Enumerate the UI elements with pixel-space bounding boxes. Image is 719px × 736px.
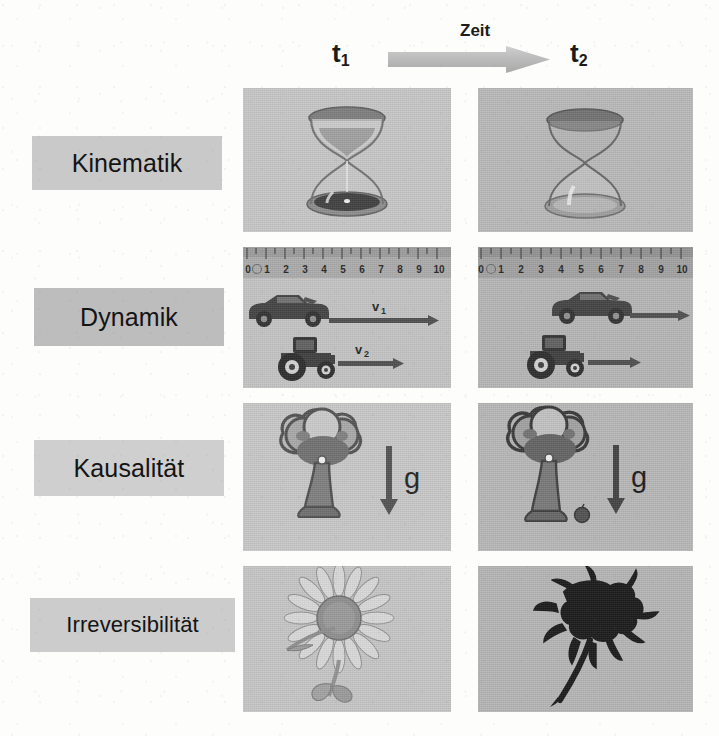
panel-kausalitaet-t2: g: [478, 403, 693, 551]
t1-letter: t: [332, 38, 341, 68]
svg-text:2: 2: [283, 264, 289, 275]
ruler-icon: 012 345 678 910: [478, 247, 693, 278]
dynamik-scene-t2: 012 345 678 910: [478, 247, 693, 388]
svg-text:7: 7: [618, 264, 624, 275]
t2-letter: t: [570, 38, 579, 68]
tractor-icon: [527, 335, 584, 379]
row-label-irreversibilitaet: Irreversibilität: [30, 598, 235, 652]
t2-subscript: 2: [579, 52, 588, 69]
panel-irreversibilitaet-t2: [478, 566, 693, 712]
flower-icon: [243, 566, 451, 712]
panel-dynamik-t2: 012 345 678 910: [478, 247, 693, 388]
tree-icon: [281, 409, 361, 517]
svg-text:5: 5: [578, 264, 584, 275]
svg-text:5: 5: [340, 264, 346, 275]
velocity-arrow-icon-v2: [338, 358, 404, 369]
svg-text:3: 3: [538, 264, 544, 275]
apple-icon: [575, 504, 590, 523]
car-icon: [552, 292, 632, 324]
svg-text:10: 10: [676, 264, 688, 275]
panel-kausalitaet-t1: g: [243, 403, 451, 551]
row-label-dynamik: Dynamik: [34, 288, 224, 346]
svg-text:0: 0: [478, 264, 484, 275]
time-label-t2: t2: [570, 38, 588, 70]
svg-text:10: 10: [433, 264, 445, 275]
gravity-label: g: [631, 461, 647, 493]
hourglass-icon: [478, 88, 693, 232]
svg-text:6: 6: [598, 264, 604, 275]
row-label-kausalitaet: Kausalität: [34, 440, 224, 496]
panel-kinematik-t2: [478, 88, 693, 232]
svg-text:3: 3: [302, 264, 308, 275]
svg-text:1: 1: [498, 264, 504, 275]
t1-subscript: 1: [341, 52, 350, 69]
velocity-label-v2: v: [355, 342, 363, 357]
svg-text:2: 2: [518, 264, 524, 275]
panel-dynamik-t1: 012 345 678 910 v 1: [243, 247, 451, 388]
svg-text:8: 8: [638, 264, 644, 275]
kausalitaet-scene-t2: g: [478, 403, 693, 551]
tractor-icon: [278, 337, 335, 381]
velocity-arrow-icon-v1: [630, 310, 690, 321]
time-label-t1: t1: [332, 38, 350, 70]
leaf: [312, 684, 331, 701]
svg-text:1: 1: [264, 264, 270, 275]
down-arrow-icon: [380, 446, 398, 515]
dynamik-scene-t1: 012 345 678 910 v 1: [243, 247, 451, 388]
leaf: [333, 686, 352, 702]
right-arrow-icon: [388, 46, 550, 74]
svg-text:9: 9: [416, 264, 422, 275]
panel-irreversibilitaet-t1: [243, 566, 451, 712]
tree-icon: [508, 407, 588, 521]
velocity-label-v1: v: [372, 299, 380, 314]
svg-text:2: 2: [364, 349, 369, 359]
diagram-header: t1 Zeit t2: [0, 0, 719, 88]
gravity-label: g: [404, 462, 420, 494]
svg-text:7: 7: [378, 264, 384, 275]
svg-text:8: 8: [397, 264, 403, 275]
hourglass-icon: [243, 88, 451, 232]
svg-text:1: 1: [381, 306, 386, 316]
ruler-icon: 012 345 678 910: [243, 247, 451, 278]
velocity-arrow-icon-v1: [329, 315, 439, 326]
panel-kinematik-t1: [243, 88, 451, 232]
withered-flower-icon: [478, 566, 693, 712]
row-label-kinematik: Kinematik: [32, 136, 222, 190]
apple-icon: [318, 456, 326, 464]
velocity-arrow-icon-v2: [588, 357, 641, 368]
car-icon: [249, 295, 329, 327]
time-axis-caption: Zeit: [460, 21, 490, 41]
svg-text:9: 9: [658, 264, 664, 275]
svg-text:6: 6: [359, 264, 365, 275]
svg-text:0: 0: [245, 264, 251, 275]
kausalitaet-scene-t1: g: [243, 403, 451, 551]
svg-text:4: 4: [558, 264, 564, 275]
svg-text:4: 4: [321, 264, 327, 275]
down-arrow-icon: [607, 445, 625, 514]
